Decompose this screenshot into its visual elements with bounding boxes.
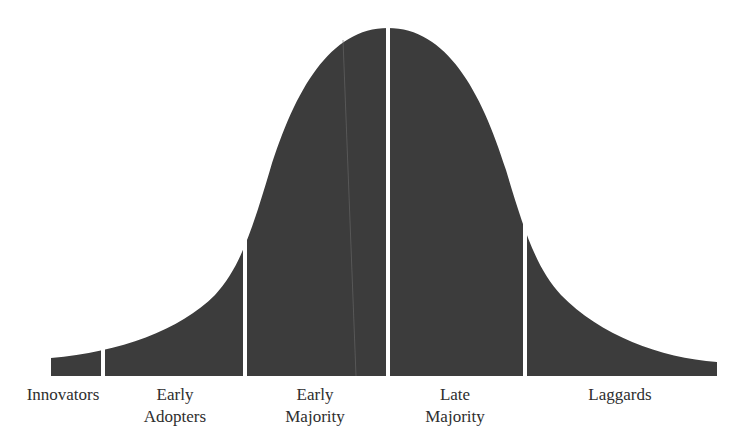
label-line: Early [260,384,370,406]
label-line: Innovators [8,384,118,406]
label-innovators: Innovators [8,384,118,406]
label-laggards: Laggards [565,384,675,406]
segment-late-majority [390,0,523,376]
label-line: Early [120,384,230,406]
label-line: Majority [400,406,510,428]
label-line: Late [400,384,510,406]
segment-innovators [51,0,101,376]
adoption-bell-curve [0,0,734,448]
segment-laggards [527,0,717,376]
label-late-majority: Late Majority [400,384,510,428]
label-line: Laggards [565,384,675,406]
segment-early-adopters [105,0,243,376]
label-early-adopters: Early Adopters [120,384,230,428]
label-early-majority: Early Majority [260,384,370,428]
segment-early-majority [247,0,386,376]
label-line: Majority [260,406,370,428]
label-line: Adopters [120,406,230,428]
